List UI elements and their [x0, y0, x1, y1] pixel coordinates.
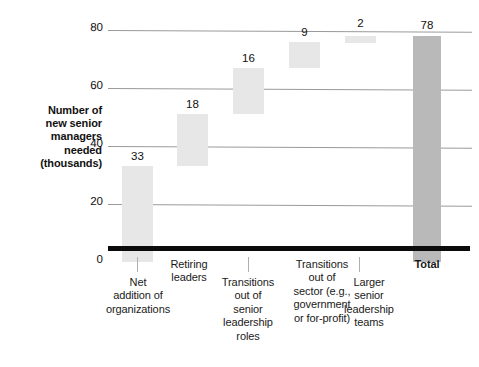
bar-value-transitions-out-of-sector: 9: [289, 27, 320, 39]
y-axis-title-line-1: Number of: [6, 104, 102, 117]
category-label-retiring-leaders: Retiring leaders: [158, 258, 220, 285]
category-label-line: leadership: [333, 303, 405, 316]
category-label-total: Total: [403, 258, 451, 271]
plot-area: 80 60 40 20 0 33 18 16 9 2 78: [108, 18, 472, 250]
y-axis-title-line-4: needed: [6, 144, 102, 157]
category-label-line: Transitions: [282, 258, 362, 271]
bar-transitions-out-of-senior-leadership-roles[interactable]: [233, 68, 264, 114]
bar-retiring-leaders[interactable]: [177, 114, 208, 166]
waterfall-chart: Number of new senior managers needed (th…: [0, 0, 479, 367]
bar-value-transitions-out-of-senior-leadership-roles: 16: [233, 53, 264, 65]
bar-value-retiring-leaders: 18: [177, 99, 208, 111]
bar-value-total: 78: [413, 20, 441, 32]
bar-larger-senior-leadership-teams[interactable]: [345, 36, 376, 43]
y-axis-title-line-5: (thousands): [6, 157, 102, 170]
category-label-line: Transitions: [212, 276, 284, 289]
y-axis-title: Number of new senior managers needed (th…: [6, 104, 102, 170]
category-label-line: addition of: [96, 289, 180, 302]
category-label-line: senior: [212, 303, 284, 316]
bar-transitions-out-of-sector[interactable]: [289, 42, 320, 68]
category-label-larger-senior-leadership-teams: Larger senior leadership teams: [333, 276, 405, 330]
bar-value-net-addition-of-organizations: 33: [122, 151, 153, 163]
category-label-line: teams: [333, 316, 405, 329]
category-label-line: leadership: [212, 316, 284, 329]
category-label-line: organizations: [96, 303, 180, 316]
bar-total[interactable]: [413, 36, 441, 262]
category-label-line: Larger: [333, 276, 405, 289]
category-label-line: senior: [333, 289, 405, 302]
y-tick-label-40: 40: [90, 138, 103, 150]
category-label-transitions-out-of-senior-leadership-roles: Transitions out of senior leadership rol…: [212, 276, 284, 343]
category-label-line: out of: [212, 289, 284, 302]
category-tick-3: [248, 257, 249, 272]
category-label-line: Retiring: [158, 258, 220, 271]
y-tick-label-0: 0: [97, 254, 103, 266]
category-label-line: roles: [212, 330, 284, 343]
y-tick-label-20: 20: [90, 196, 103, 208]
y-tick-label-80: 80: [90, 22, 103, 34]
axis-baseline: [108, 246, 470, 251]
category-tick-1: [137, 257, 138, 272]
bar-value-larger-senior-leadership-teams: 2: [345, 18, 376, 30]
y-tick-label-60: 60: [90, 80, 103, 92]
category-label-line: leaders: [158, 271, 220, 284]
y-axis-title-line-2: new senior: [6, 117, 102, 130]
category-label-line: Total: [403, 258, 451, 271]
y-axis-title-line-3: managers: [6, 130, 102, 143]
